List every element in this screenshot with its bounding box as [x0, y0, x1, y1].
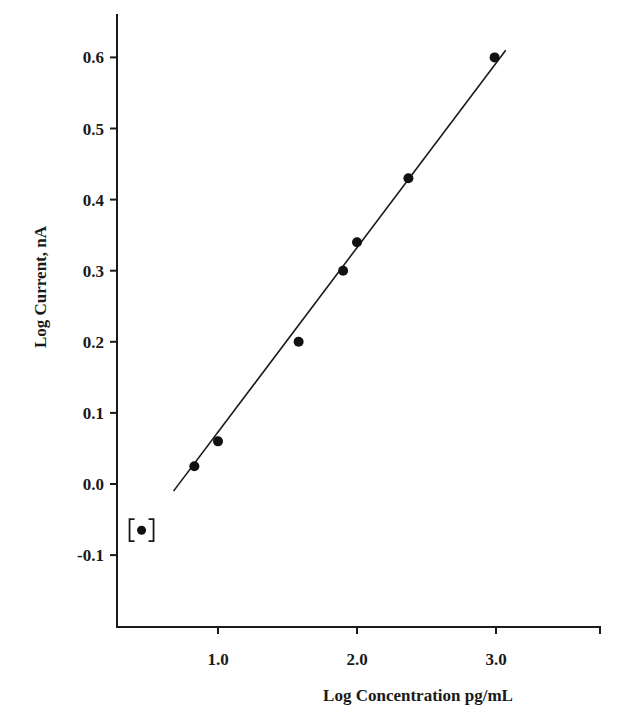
data-point	[189, 461, 199, 471]
x-tick-label: 1.0	[207, 650, 228, 669]
y-axis-title: Log Current, nA	[31, 225, 50, 348]
excluded-point	[130, 519, 154, 541]
y-tick-label: 0.1	[83, 404, 104, 423]
data-point	[490, 52, 500, 62]
y-tick-label: 0.5	[83, 120, 104, 139]
x-tick-label: 3.0	[485, 650, 506, 669]
y-tick-label: 0.3	[83, 262, 104, 281]
excluded-data-point	[137, 526, 146, 535]
data-point	[213, 436, 223, 446]
data-point	[352, 237, 362, 247]
right-bracket	[149, 519, 154, 541]
x-axis-title: Log Concentration pg/mL	[323, 686, 513, 705]
y-tick-label: 0.0	[83, 475, 104, 494]
y-tick-label: 0.4	[83, 191, 105, 210]
y-tick-label: -0.1	[77, 546, 104, 565]
y-tick-label: 0.2	[83, 333, 104, 352]
data-point	[338, 266, 348, 276]
plot-area	[116, 14, 601, 634]
data-point	[403, 173, 413, 183]
y-axis-ticks: 0.60.50.40.30.20.10.0-0.1	[77, 48, 117, 565]
log-calibration-chart: 0.60.50.40.30.20.10.0-0.1 1.02.03.0 Log …	[0, 0, 624, 725]
y-tick-label: 0.6	[83, 48, 104, 67]
x-axis-ticks: 1.02.03.0	[207, 627, 506, 669]
x-tick-label: 2.0	[346, 650, 367, 669]
data-point	[294, 337, 304, 347]
left-bracket	[130, 519, 135, 541]
